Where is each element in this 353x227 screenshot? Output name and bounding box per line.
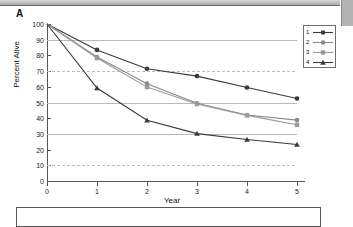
plot-area	[47, 24, 297, 181]
series-line-3	[47, 24, 297, 125]
panel-label: A	[16, 8, 23, 19]
y-tick-label: 70	[36, 68, 44, 75]
data-point	[145, 85, 149, 89]
x-tick	[247, 181, 248, 186]
chart-legend: 1234	[303, 25, 336, 68]
x-tick-label: 5	[295, 188, 299, 195]
data-point	[321, 50, 325, 54]
series-line-4	[47, 24, 297, 145]
legend-label: 1	[306, 29, 311, 35]
data-point	[195, 74, 200, 79]
y-axis-title: Percent Alive	[12, 25, 21, 105]
y-tick-label: 40	[36, 115, 44, 122]
y-tick-label: 60	[36, 83, 44, 90]
x-tick	[197, 181, 198, 186]
y-tick-label: 100	[32, 21, 44, 28]
x-tick	[147, 181, 148, 186]
series-lines	[47, 24, 297, 181]
y-tick-label: 80	[36, 52, 44, 59]
series-line-1	[47, 24, 297, 99]
legend-item-2[interactable]: 2	[306, 37, 333, 47]
x-tick-label: 1	[95, 188, 99, 195]
legend-item-3[interactable]: 3	[306, 47, 333, 57]
legend-marker-circle-icon	[312, 38, 333, 47]
data-point	[95, 48, 100, 53]
y-tick-label: 50	[36, 99, 44, 106]
legend-label: 2	[306, 39, 311, 45]
y-tick-label: 0	[40, 178, 44, 185]
legend-label: 3	[306, 49, 311, 55]
legend-item-1[interactable]: 1	[306, 27, 333, 37]
data-point	[295, 123, 299, 127]
data-point	[95, 56, 99, 60]
data-point	[245, 85, 250, 90]
x-tick-label: 2	[145, 188, 149, 195]
legend-item-4[interactable]: 4	[306, 57, 333, 67]
legend-marker-square-icon	[312, 48, 333, 57]
legend-marker-triangle-icon	[312, 58, 333, 67]
data-point	[295, 118, 300, 123]
y-tick-label: 10	[36, 162, 44, 169]
data-point	[145, 66, 150, 71]
data-point	[144, 117, 150, 122]
top-bar-divider	[0, 5, 340, 6]
legend-marker-circle-icon	[312, 28, 333, 37]
x-tick	[97, 181, 98, 186]
caption-box	[16, 207, 321, 227]
y-tick-label: 30	[36, 130, 44, 137]
legend-label: 4	[306, 59, 311, 65]
scrollbar-thumb[interactable]	[341, 0, 353, 26]
data-point	[195, 102, 199, 106]
x-tick-label: 3	[195, 188, 199, 195]
x-tick	[297, 181, 298, 186]
x-tick-label: 4	[245, 188, 249, 195]
x-axis-title: Year	[47, 196, 297, 205]
data-point	[321, 40, 326, 45]
data-point	[321, 30, 326, 35]
x-tick	[47, 181, 48, 186]
y-tick-label: 20	[36, 146, 44, 153]
y-axis-tick-labels: 0102030405060708090100	[18, 24, 44, 182]
y-tick-label: 90	[36, 36, 44, 43]
data-point	[245, 113, 249, 117]
data-point	[295, 96, 300, 101]
x-tick-label: 0	[45, 188, 49, 195]
